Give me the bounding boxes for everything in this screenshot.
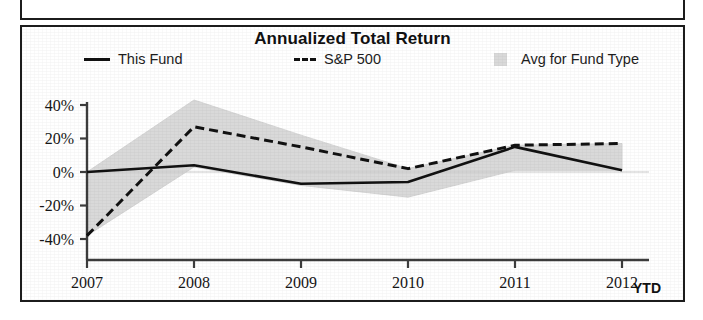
svg-text:2010: 2010 <box>392 274 424 291</box>
chart-svg: 40%20%0%-20%-40% 20072008200920102011201… <box>22 27 687 304</box>
svg-text:-20%: -20% <box>39 197 74 214</box>
svg-text:2007: 2007 <box>71 274 103 291</box>
y-axis-tick-labels: 40%20%0%-20%-40% <box>39 97 74 248</box>
ytd-label: YTD <box>633 280 661 296</box>
svg-text:2009: 2009 <box>285 274 317 291</box>
chart-panel: Annualized Total Return This Fund S&P 50… <box>20 25 685 302</box>
svg-text:0%: 0% <box>53 164 74 181</box>
x-axis-tick-labels: 200720082009201020112012 <box>71 274 638 291</box>
svg-text:20%: 20% <box>45 130 74 147</box>
plot-area: 40%20%0%-20%-40% 20072008200920102011201… <box>22 27 687 304</box>
svg-text:2011: 2011 <box>499 274 530 291</box>
svg-text:40%: 40% <box>45 97 74 114</box>
top-partial-panel <box>20 0 685 20</box>
svg-text:-40%: -40% <box>39 231 74 248</box>
svg-text:2008: 2008 <box>178 274 210 291</box>
